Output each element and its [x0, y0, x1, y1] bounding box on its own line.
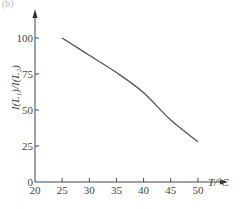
y-axis-label: I(L₁)/I(L₂) — [9, 65, 22, 111]
axes — [33, 9, 229, 185]
data-curve — [62, 38, 198, 142]
y-tick-label: 25 — [22, 140, 34, 152]
y-tick-label: 75 — [22, 68, 34, 80]
y-tick-label: 0 — [28, 176, 34, 188]
x-tick-label: 35 — [111, 184, 123, 196]
x-tick-label: 40 — [138, 184, 150, 196]
x-tick-label: 50 — [192, 184, 204, 196]
ticks: 202530354045500255075100 — [17, 32, 204, 196]
x-tick-label: 30 — [84, 184, 96, 196]
y-tick-label: 100 — [17, 32, 34, 44]
y-axis-arrow-icon — [33, 9, 38, 18]
x-tick-label: 45 — [165, 184, 177, 196]
panel-label: (b) — [2, 0, 14, 10]
x-axis-label: T/°C — [208, 176, 230, 188]
x-tick-label: 25 — [57, 184, 69, 196]
y-tick-label: 50 — [22, 104, 34, 116]
chart: (b) 202530354045500255075100 T/°C I(L₁)/… — [0, 0, 245, 209]
